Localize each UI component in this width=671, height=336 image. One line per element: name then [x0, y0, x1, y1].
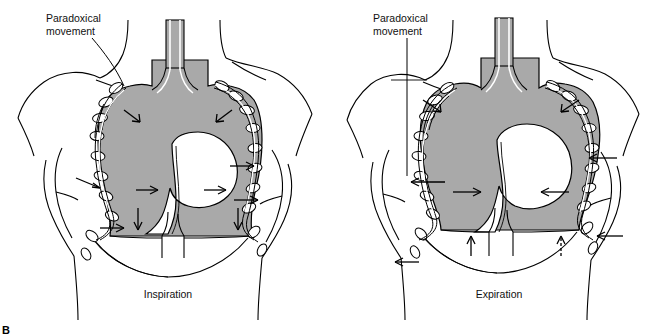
- expiration-illustration: Paradoxical movement Expiration: [335, 0, 671, 333]
- panel-expiration: Paradoxical movement Expiration: [335, 0, 671, 333]
- paradoxical-label-line1: Paradoxical: [46, 12, 101, 24]
- arrow-left-lateral-flail-inward: [76, 178, 100, 188]
- panel-caption-inspiration: Inspiration: [144, 288, 193, 300]
- inspiration-illustration: Paradoxical movement Inspiration: [0, 0, 336, 333]
- paradoxical-label-line2: movement: [373, 25, 422, 37]
- diaphragm: [92, 236, 252, 277]
- panel-inspiration: Paradoxical movement Inspiration: [0, 0, 336, 333]
- arrow-left-diaphragm-ascent: [467, 236, 475, 256]
- paradoxical-label-line2: movement: [46, 25, 95, 37]
- diaphragm: [419, 230, 579, 273]
- panel-caption-expiration: Expiration: [476, 288, 523, 300]
- figure-panel-letter: B: [2, 324, 10, 336]
- paradoxical-label-line1: Paradoxical: [373, 12, 428, 24]
- arrow-left-lower-outward: [395, 258, 419, 266]
